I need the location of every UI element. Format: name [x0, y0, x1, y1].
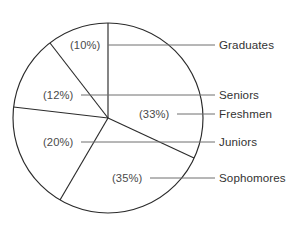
percent-label-seniors: (12%) — [43, 89, 74, 101]
category-label-seniors: Seniors — [219, 88, 259, 101]
category-label-sophomores: Sophomores — [219, 171, 286, 184]
percent-label-graduates: (10%) — [70, 39, 101, 51]
percent-label-sophomores: (35%) — [112, 172, 143, 184]
percent-label-juniors: (20%) — [43, 136, 74, 148]
pie-chart-figure: (10%) Graduates (12%) Seniors (33%) Fres… — [0, 0, 296, 231]
category-label-juniors: Juniors — [219, 135, 257, 148]
category-label-graduates: Graduates — [219, 38, 274, 51]
pie-chart-svg: (10%) Graduates (12%) Seniors (33%) Fres… — [0, 0, 296, 231]
percent-label-freshmen: (33%) — [139, 108, 170, 120]
category-label-freshmen: Freshmen — [219, 107, 272, 120]
